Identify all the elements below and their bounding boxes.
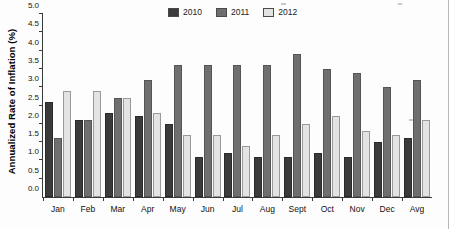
y-tick-label: 0.5 (28, 165, 43, 174)
bar-2012-Dec (392, 135, 400, 197)
bar-group-Feb: Feb (73, 14, 103, 197)
x-tick-label-May: May (163, 204, 193, 214)
y-tick-label: 4.5 (28, 19, 43, 28)
x-tick-mark (342, 197, 343, 201)
x-tick-mark (193, 197, 194, 201)
bar-group-Sept: Sept (282, 14, 312, 197)
x-tick-label-Avg: Avg (402, 204, 432, 214)
bar-2010-Feb (75, 120, 83, 197)
scan-speck (281, 3, 286, 5)
bar-2011-Nov (353, 73, 361, 197)
x-tick-mark (73, 197, 74, 201)
y-tick-label: 2.0 (28, 110, 43, 119)
y-tick-label: 0.0 (28, 184, 43, 193)
bar-2010-Nov (344, 157, 352, 197)
bar-2012-Jun (213, 135, 221, 197)
scan-speck (398, 3, 402, 5)
x-tick-mark (252, 197, 253, 201)
bar-group-May: May (163, 14, 193, 197)
bar-2012-Aug (272, 135, 280, 197)
y-tick-label: 1.5 (28, 129, 43, 138)
x-tick-label-Aug: Aug (252, 204, 282, 214)
x-tick-label-Sept: Sept (282, 204, 312, 214)
bar-2011-Jun (204, 65, 212, 197)
bar-2010-Avg (404, 138, 412, 197)
x-tick-label-Dec: Dec (372, 204, 402, 214)
bar-2010-May (165, 124, 173, 197)
bar-group-Jun: Jun (193, 14, 223, 197)
x-tick-mark (103, 197, 104, 201)
bar-2011-Apr (144, 80, 152, 197)
scan-speck (409, 119, 413, 121)
bar-2011-Mar (114, 98, 122, 197)
x-tick-label-Nov: Nov (342, 204, 372, 214)
bar-group-Jul: Jul (223, 14, 253, 197)
bar-2011-Dec (383, 87, 391, 197)
bar-2012-Feb (93, 91, 101, 197)
x-tick-mark (43, 197, 44, 201)
y-tick-label: 1.0 (28, 147, 43, 156)
bar-group-Jan: Jan (43, 14, 73, 197)
bar-2011-Jan (54, 138, 62, 197)
bar-2011-May (174, 65, 182, 197)
x-tick-mark (282, 197, 283, 201)
y-tick-label: 2.5 (28, 92, 43, 101)
x-tick-mark (312, 197, 313, 201)
bar-2011-Feb (84, 120, 92, 197)
bar-2012-May (183, 135, 191, 197)
bar-2010-Sept (284, 157, 292, 197)
y-tick-label: 5.0 (28, 1, 43, 10)
bar-2012-Mar (123, 98, 131, 197)
bar-2010-Jun (195, 157, 203, 197)
bar-group-Oct: Oct (312, 14, 342, 197)
bar-2012-Jan (63, 91, 71, 197)
bar-2012-Oct (332, 116, 340, 197)
bar-2012-Sept (302, 124, 310, 197)
bar-2011-Oct (323, 69, 331, 197)
bar-groups: JanFebMarAprMayJunJulAugSeptOctNovDecAvg (43, 14, 432, 197)
y-tick-label: 4.0 (28, 37, 43, 46)
bar-group-Mar: Mar (103, 14, 133, 197)
x-tick-label-Jun: Jun (193, 204, 223, 214)
bar-2011-Jul (233, 65, 241, 197)
bar-group-Apr: Apr (133, 14, 163, 197)
bar-group-Nov: Nov (342, 14, 372, 197)
bar-2010-Mar (105, 113, 113, 197)
bar-2011-Aug (263, 65, 271, 197)
y-tick-label: 3.0 (28, 74, 43, 83)
bar-2012-Apr (153, 113, 161, 197)
bar-2011-Sept (293, 54, 301, 197)
x-tick-label-Feb: Feb (73, 204, 103, 214)
plot-area: 0.00.51.01.52.02.53.03.54.04.55.0 JanFeb… (42, 14, 432, 198)
bar-2010-Apr (135, 116, 143, 197)
bar-group-Aug: Aug (252, 14, 282, 197)
bar-2011-Avg (413, 80, 421, 197)
x-tick-label-Jul: Jul (223, 204, 253, 214)
bar-2010-Aug (254, 157, 262, 197)
x-tick-mark (223, 197, 224, 201)
x-tick-label-Jan: Jan (43, 204, 73, 214)
bar-2010-Dec (374, 142, 382, 197)
x-tick-mark (402, 197, 403, 201)
x-tick-label-Oct: Oct (312, 204, 342, 214)
bar-2010-Oct (314, 153, 322, 197)
y-axis-title: Annualized Rate of Inflation (%) (6, 7, 17, 197)
chart-figure: 201020112012 Annualized Rate of Inflatio… (0, 0, 449, 229)
bar-group-Avg: Avg (402, 14, 432, 197)
bar-2012-Avg (422, 120, 430, 197)
bar-2012-Jul (242, 146, 250, 197)
x-tick-mark (133, 197, 134, 201)
bar-2012-Nov (362, 131, 370, 197)
bar-2010-Jul (224, 153, 232, 197)
x-tick-label-Apr: Apr (133, 204, 163, 214)
x-tick-label-Mar: Mar (103, 204, 133, 214)
y-tick-label: 3.5 (28, 55, 43, 64)
bar-group-Dec: Dec (372, 14, 402, 197)
x-tick-mark (163, 197, 164, 201)
bar-2010-Jan (45, 102, 53, 197)
x-tick-mark (372, 197, 373, 201)
